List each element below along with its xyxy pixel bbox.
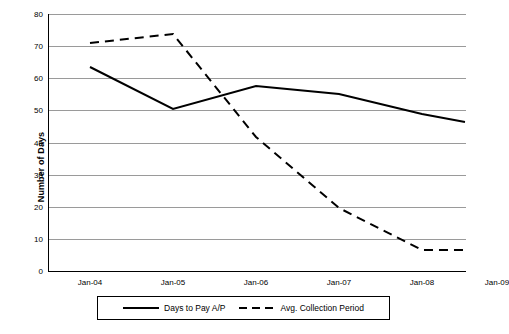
x-tick-label: Jan-06: [244, 278, 268, 287]
x-tick-label: Jan-05: [161, 278, 185, 287]
y-tick-label: 10: [34, 235, 43, 244]
legend-item-avg-collection-period: Avg. Collection Period: [239, 303, 363, 313]
x-tick-label: Jan-08: [410, 278, 434, 287]
y-axis-title: Number of Days: [36, 132, 46, 202]
y-tick-label: 80: [34, 10, 43, 19]
solid-line-swatch: [123, 304, 159, 312]
legend-label: Days to Pay A/P: [164, 303, 225, 313]
plot-area: 80 70 60 50 40 30 20 10 0 Jan-04 Jan-05 …: [48, 14, 466, 272]
dashed-line-swatch: [239, 304, 275, 312]
chart-legend: Days to Pay A/P Avg. Collection Period: [97, 296, 390, 320]
x-tick-label: Jan-09: [485, 278, 509, 287]
y-tick-label: 60: [34, 74, 43, 83]
x-tick-label: Jan-07: [327, 278, 351, 287]
y-tick-label: 0: [39, 267, 43, 276]
y-tick-label: 20: [34, 203, 43, 212]
legend-label: Avg. Collection Period: [280, 303, 363, 313]
x-tick-label: Jan-04: [78, 278, 102, 287]
y-tick-label: 70: [34, 42, 43, 51]
plot-svg: [48, 14, 466, 272]
y-tick-label: 50: [34, 106, 43, 115]
legend-item-days-to-pay-ap: Days to Pay A/P: [123, 303, 225, 313]
